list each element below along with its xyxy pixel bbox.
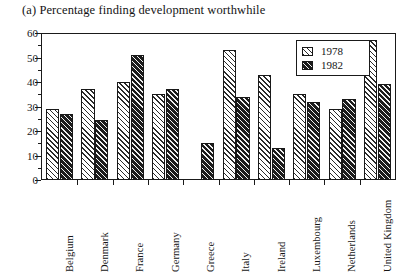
x-tick [183,180,184,185]
bar-1978-germany [152,94,165,180]
x-label-netherlands: Netherlands [346,220,357,272]
y-tick-label: 20 [2,125,38,137]
x-label-luxembourg: Luxembourg [311,217,322,272]
legend-item-1978[interactable]: 1978 [302,44,365,58]
bar-1982-netherlands [342,99,355,180]
bar-1982-france [131,55,144,180]
legend-item-1982[interactable]: 1982 [302,58,365,72]
bar-1978-luxembourg [293,94,306,180]
y-tick-label: 40 [2,76,38,88]
x-label-ireland: Ireland [276,242,287,272]
x-tick [324,180,325,185]
x-label-greece: Greece [205,242,216,272]
legend-swatch-1978 [302,47,313,56]
bar-1982-denmark [95,120,108,180]
bar-1978-denmark [81,89,94,180]
x-tick [77,180,78,185]
x-tick [113,180,114,185]
x-tick [148,180,149,185]
legend: 19781982 [296,40,370,76]
x-label-united-kingdom: United Kingdom [382,200,393,272]
x-label-denmark: Denmark [99,232,110,272]
x-label-germany: Germany [170,232,181,272]
y-tick-label: 50 [2,52,38,64]
y-tick-label: 0 [2,174,38,186]
y-tick-major [35,180,41,181]
bar-1978-belgium [46,109,59,180]
x-axis-labels: BelgiumDenmarkFranceGermanyGreeceItalyIr… [42,186,395,275]
legend-label-1982: 1982 [321,60,343,71]
bar-1982-ireland [272,148,285,180]
figure: (a) Percentage finding development worth… [0,0,415,275]
bar-1978-netherlands [329,109,342,180]
x-tick [219,180,220,185]
bar-1982-united-kingdom [378,84,391,180]
legend-label-1978: 1978 [321,46,343,57]
bar-1982-germany [166,89,179,180]
x-label-belgium: Belgium [64,235,75,272]
x-tick [254,180,255,185]
legend-swatch-1982 [302,61,313,70]
y-tick-label: 30 [2,101,38,113]
bar-1982-italy [236,97,249,180]
bar-1978-france [117,82,130,180]
bar-1978-italy [223,50,236,180]
y-axis: 0102030405060 [0,0,38,275]
bar-1982-greece [201,143,214,180]
y-tick-label: 60 [2,27,38,39]
y-tick-label: 10 [2,150,38,162]
x-label-france: France [134,243,145,272]
chart-title: (a) Percentage finding development worth… [22,3,265,18]
bar-1982-belgium [60,114,73,180]
x-tick [360,180,361,185]
bar-1982-luxembourg [307,102,320,180]
x-label-italy: Italy [240,252,251,272]
x-tick [289,180,290,185]
bar-1978-ireland [258,75,271,180]
